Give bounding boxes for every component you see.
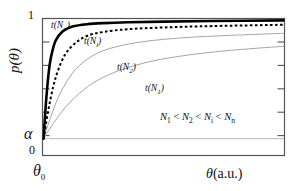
curve-label-n1-fn: t(N <box>145 83 157 93</box>
x-axis-label-symbol: θ <box>206 166 213 181</box>
x-tick-theta-subscript: 0 <box>41 172 46 182</box>
y-tick-label-one: 1 <box>28 8 34 23</box>
curve-label-ni-fn: t(N <box>84 36 96 46</box>
curve-label-nn-fn: t(N <box>51 20 63 30</box>
y-axis-label: p(θ) <box>6 31 23 91</box>
ineq-n2: N <box>182 111 189 122</box>
curve-label-n1-end: ) <box>161 83 164 93</box>
ineq-op-1: < <box>171 111 182 122</box>
x-axis-label-units: (a.u.) <box>213 166 243 181</box>
curve-label-n2-fn: t(N <box>117 62 129 72</box>
inequality-annotation: N1 < N2 < Ni < Nn <box>160 111 235 125</box>
x-axis-label: θ(a.u.) <box>206 166 242 182</box>
ineq-n3: N <box>204 111 211 122</box>
y-tick-label-alpha: α <box>24 125 32 143</box>
ineq-n1: N <box>160 111 167 122</box>
ineq-op-3: < <box>213 111 224 122</box>
curve-label-ni-end: ) <box>98 36 101 46</box>
x-tick-label-theta0: θ0 <box>33 162 45 182</box>
curve-label-nn-end: ) <box>67 20 70 30</box>
curve-label-n2-end: ) <box>133 62 136 72</box>
ineq-op-2: < <box>193 111 204 122</box>
y-tick-label-zero: 0 <box>29 143 35 158</box>
y-axis-ticks-right <box>278 42 285 136</box>
y-axis-label-text: p(θ) <box>6 48 22 73</box>
curve-label-t-nn: t(Nn) <box>51 20 70 33</box>
figure-container: p(θ) θ(a.u.) 1 0 α θ0 t(Nn) t(Ni) t(N2) … <box>0 0 302 191</box>
x-tick-theta-symbol: θ <box>33 162 41 179</box>
ineq-n4-sub: n <box>231 116 235 125</box>
curve-label-t-ni: t(Ni) <box>84 36 101 49</box>
curve-label-t-n1: t(N1) <box>145 83 164 96</box>
curve-label-t-n2: t(N2) <box>117 62 136 75</box>
